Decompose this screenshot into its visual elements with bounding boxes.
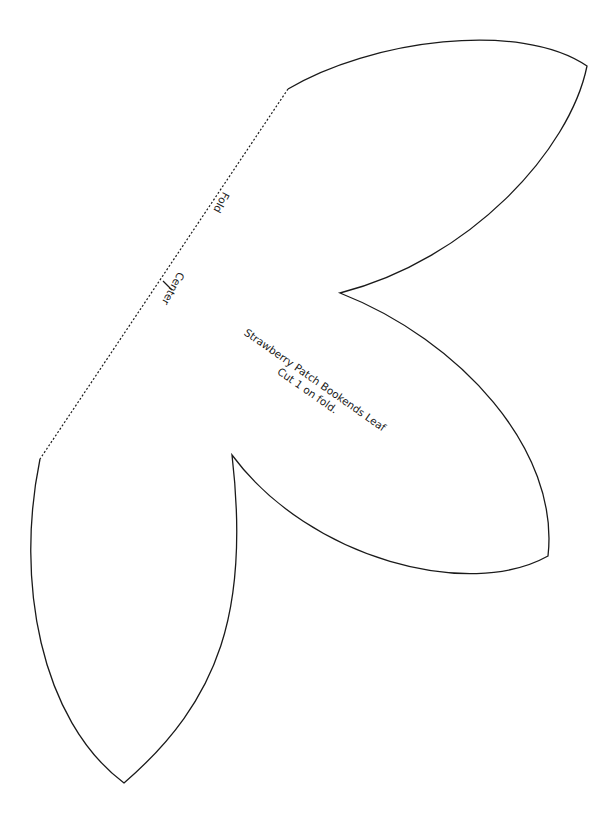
leaf-outline: [31, 40, 587, 783]
fold-line: [40, 89, 288, 459]
pattern-page: Fold Center Strawberry Patch Bookends Le…: [0, 0, 601, 817]
leaf-pattern-outline: [0, 0, 601, 817]
